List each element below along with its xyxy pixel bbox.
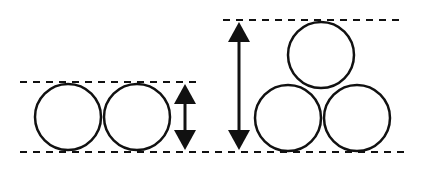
height-arrows xyxy=(174,22,250,150)
arrow-down-icon xyxy=(228,130,250,150)
circle-0 xyxy=(35,84,101,150)
arrow-up-icon xyxy=(174,84,196,104)
circle-1 xyxy=(104,84,170,150)
circle-3 xyxy=(255,85,321,151)
arrow-down-icon xyxy=(174,130,196,150)
circles xyxy=(35,22,390,151)
circle-4 xyxy=(324,85,390,151)
circle-2 xyxy=(288,22,354,88)
circle-packing-diagram xyxy=(0,0,431,177)
right-height-arrow xyxy=(228,22,250,150)
left-height-arrow xyxy=(174,84,196,150)
arrow-up-icon xyxy=(228,22,250,42)
